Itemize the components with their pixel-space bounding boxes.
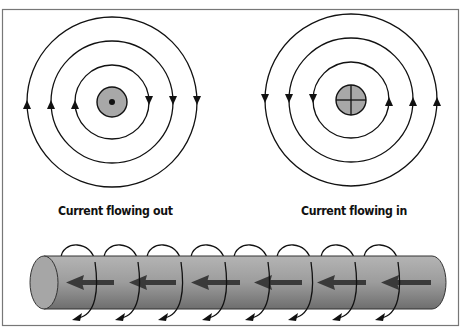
field-current-out	[23, 17, 201, 187]
arrow-up-icon	[409, 97, 417, 106]
arrow-up-icon	[47, 100, 55, 109]
arrow-up-icon	[433, 97, 441, 106]
conductor-cylinder	[30, 245, 446, 321]
arrow-up-icon	[385, 97, 393, 106]
arrow-down-icon	[193, 96, 201, 105]
label-current-in: Current flowing in	[301, 203, 407, 218]
arrow-down-icon	[261, 94, 269, 103]
electromagnetism-diagram	[0, 0, 463, 331]
loop-arrowheads	[72, 313, 385, 321]
label-current-out: Current flowing out	[58, 203, 173, 218]
dot-icon	[109, 99, 115, 105]
arrow-down-icon	[285, 94, 293, 103]
arrow-up-icon	[71, 100, 79, 109]
field-current-in	[261, 14, 441, 186]
arrow-down-icon	[309, 94, 317, 103]
arrow-down-icon	[145, 96, 153, 105]
arrow-down-icon	[169, 96, 177, 105]
arrow-up-icon	[23, 100, 31, 109]
